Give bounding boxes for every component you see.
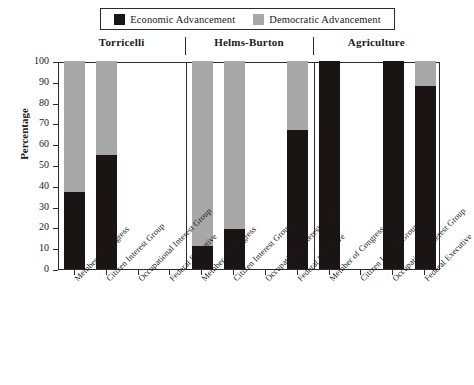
panel-title-torricelli: Torricelli	[58, 36, 185, 48]
y-tick-label: 60	[39, 138, 49, 149]
y-tick-label: 100	[34, 55, 49, 66]
panel-titles: TorricelliHelms-BurtonAgriculture	[58, 36, 440, 56]
y-tick-label: 50	[39, 159, 49, 170]
chart-legend: Economic Advancement Democratic Advancem…	[100, 8, 395, 30]
legend-swatch-democratic	[253, 14, 264, 25]
legend-label-democratic: Democratic Advancement	[269, 14, 381, 25]
x-axis-labels: Member of CongressCitizen Interest Group…	[58, 276, 460, 384]
y-tick-label: 10	[39, 242, 49, 253]
legend-item-economic: Economic Advancement	[114, 14, 235, 25]
y-tick-label: 70	[39, 117, 49, 128]
y-tick-label: 30	[39, 201, 49, 212]
legend-label-economic: Economic Advancement	[130, 14, 235, 25]
y-tick-label: 0	[44, 263, 49, 274]
panel-title-helms-burton: Helms-Burton	[185, 36, 312, 48]
bar-segment-democratic	[64, 61, 85, 192]
y-axis-ticks: 0102030405060708090100	[0, 62, 58, 270]
legend-item-democratic: Democratic Advancement	[253, 14, 381, 25]
bar-segment-democratic	[287, 61, 308, 130]
y-tick-label: 90	[39, 76, 49, 87]
bar-segment-democratic	[224, 61, 245, 229]
panel-title-agriculture: Agriculture	[313, 36, 440, 48]
legend-swatch-economic	[114, 14, 125, 25]
y-tick-label: 80	[39, 97, 49, 108]
bar	[64, 61, 85, 269]
bar-segment-democratic	[96, 61, 117, 155]
y-tick-label: 40	[39, 180, 49, 191]
bar-segment-economic	[64, 192, 85, 269]
bar-segment-democratic	[415, 61, 436, 86]
y-tick-label: 20	[39, 221, 49, 232]
